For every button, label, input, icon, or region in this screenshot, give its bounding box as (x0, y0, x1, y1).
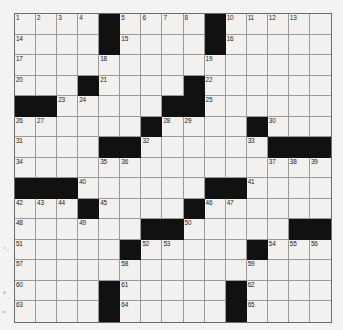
crossword-cell[interactable]: 48 (15, 219, 36, 240)
crossword-cell[interactable] (141, 158, 162, 179)
crossword-cell[interactable] (268, 260, 289, 281)
crossword-cell[interactable]: 49 (78, 219, 99, 240)
crossword-cell[interactable] (120, 178, 141, 199)
crossword-cell[interactable] (205, 301, 226, 322)
crossword-cell[interactable] (226, 76, 247, 97)
crossword-cell[interactable] (78, 117, 99, 138)
crossword-cell[interactable] (78, 260, 99, 281)
crossword-cell[interactable] (78, 55, 99, 76)
crossword-cell[interactable]: 23 (57, 96, 78, 117)
crossword-cell[interactable]: 62 (247, 281, 268, 302)
crossword-cell[interactable]: 42 (15, 199, 36, 220)
crossword-cell[interactable] (289, 199, 310, 220)
crossword-cell[interactable] (205, 137, 226, 158)
crossword-cell[interactable] (310, 260, 331, 281)
crossword-cell[interactable]: 1 (15, 14, 36, 35)
crossword-cell[interactable] (247, 158, 268, 179)
crossword-cell[interactable] (57, 281, 78, 302)
crossword-cell[interactable]: 8 (184, 14, 205, 35)
crossword-cell[interactable] (226, 137, 247, 158)
crossword-cell[interactable]: 18 (99, 55, 120, 76)
crossword-cell[interactable] (141, 281, 162, 302)
crossword-cell[interactable] (36, 137, 57, 158)
crossword-cell[interactable]: 12 (268, 14, 289, 35)
crossword-cell[interactable]: 63 (15, 301, 36, 322)
crossword-cell[interactable] (78, 35, 99, 56)
crossword-cell[interactable]: 51 (15, 240, 36, 261)
crossword-cell[interactable] (57, 55, 78, 76)
crossword-cell[interactable] (162, 260, 183, 281)
crossword-cell[interactable] (57, 219, 78, 240)
crossword-cell[interactable]: 13 (289, 14, 310, 35)
crossword-cell[interactable] (99, 117, 120, 138)
crossword-cell[interactable]: 33 (247, 137, 268, 158)
crossword-cell[interactable] (184, 158, 205, 179)
crossword-cell[interactable] (120, 76, 141, 97)
crossword-cell[interactable]: 24 (78, 96, 99, 117)
crossword-cell[interactable] (226, 260, 247, 281)
crossword-puzzle[interactable]: 1234567810111213141516171819202122232425… (14, 13, 332, 323)
crossword-cell[interactable] (57, 35, 78, 56)
crossword-cell[interactable] (36, 35, 57, 56)
crossword-cell[interactable]: 3 (57, 14, 78, 35)
crossword-cell[interactable]: 17 (15, 55, 36, 76)
crossword-cell[interactable] (226, 219, 247, 240)
crossword-cell[interactable] (36, 219, 57, 240)
crossword-cell[interactable] (184, 35, 205, 56)
crossword-cell[interactable]: 57 (15, 260, 36, 281)
crossword-cell[interactable] (310, 178, 331, 199)
crossword-cell[interactable] (310, 301, 331, 322)
crossword-cell[interactable] (289, 301, 310, 322)
crossword-cell[interactable] (184, 178, 205, 199)
crossword-cell[interactable] (310, 96, 331, 117)
crossword-cell[interactable] (268, 96, 289, 117)
crossword-cell[interactable]: 15 (120, 35, 141, 56)
crossword-cell[interactable] (120, 219, 141, 240)
crossword-cell[interactable]: 4 (78, 14, 99, 35)
crossword-cell[interactable] (226, 240, 247, 261)
crossword-cell[interactable]: 2 (36, 14, 57, 35)
crossword-cell[interactable] (247, 76, 268, 97)
crossword-cell[interactable] (310, 76, 331, 97)
crossword-cell[interactable]: 20 (15, 76, 36, 97)
crossword-cell[interactable] (162, 55, 183, 76)
crossword-cell[interactable] (78, 137, 99, 158)
crossword-cell[interactable]: 54 (268, 240, 289, 261)
crossword-cell[interactable]: 65 (247, 301, 268, 322)
crossword-cell[interactable] (268, 301, 289, 322)
crossword-cell[interactable] (289, 178, 310, 199)
crossword-cell[interactable] (78, 240, 99, 261)
crossword-cell[interactable] (162, 301, 183, 322)
crossword-cell[interactable] (226, 158, 247, 179)
crossword-cell[interactable] (120, 117, 141, 138)
crossword-cell[interactable]: 53 (162, 240, 183, 261)
crossword-cell[interactable] (36, 301, 57, 322)
crossword-cell[interactable] (310, 35, 331, 56)
crossword-cell[interactable]: 6 (141, 14, 162, 35)
crossword-cell[interactable] (268, 219, 289, 240)
crossword-cell[interactable]: 52 (141, 240, 162, 261)
crossword-cell[interactable] (268, 199, 289, 220)
crossword-cell[interactable] (289, 35, 310, 56)
crossword-cell[interactable]: 10 (226, 14, 247, 35)
crossword-cell[interactable] (57, 260, 78, 281)
crossword-cell[interactable] (289, 76, 310, 97)
crossword-cell[interactable] (184, 260, 205, 281)
crossword-cell[interactable] (120, 96, 141, 117)
crossword-cell[interactable]: 30 (268, 117, 289, 138)
crossword-cell[interactable] (289, 260, 310, 281)
crossword-cell[interactable]: 19 (205, 55, 226, 76)
crossword-cell[interactable] (247, 219, 268, 240)
crossword-cell[interactable]: 11 (247, 14, 268, 35)
crossword-cell[interactable] (141, 55, 162, 76)
crossword-cell[interactable] (268, 178, 289, 199)
crossword-cell[interactable] (141, 199, 162, 220)
crossword-cell[interactable] (141, 35, 162, 56)
crossword-cell[interactable]: 26 (15, 117, 36, 138)
crossword-cell[interactable] (247, 96, 268, 117)
crossword-cell[interactable] (184, 281, 205, 302)
crossword-cell[interactable] (36, 76, 57, 97)
crossword-cell[interactable] (99, 260, 120, 281)
crossword-cell[interactable] (184, 137, 205, 158)
crossword-cell[interactable] (268, 55, 289, 76)
